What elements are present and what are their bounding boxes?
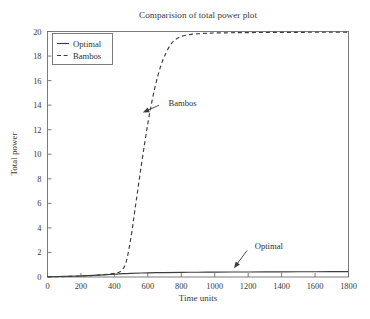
y-tick-label-18: 18 [33, 52, 41, 61]
x-tick-label-0: 0 [45, 282, 49, 291]
y-tick-label-2: 2 [37, 248, 41, 257]
y-tick-label-14: 14 [33, 101, 42, 110]
chart-legend[interactable]: Optimal Bambos [53, 34, 113, 65]
x-axis-title: Time units [179, 293, 218, 303]
y-tick-label-12: 12 [33, 126, 41, 135]
annotations-group: BambosOptimal [143, 98, 284, 268]
x-tick-label-1200: 1200 [240, 282, 257, 291]
x-tick-label-1800: 1800 [340, 282, 357, 291]
annotation-label-bambos: Bambos [169, 98, 198, 108]
power-comparison-line-chart: Comparision of total power plot 02004006… [0, 0, 370, 319]
legend-label-bambos: Bambos [73, 51, 102, 61]
x-tick-label-200: 200 [75, 282, 88, 291]
y-axis-title: Total power [9, 132, 19, 175]
data-series-group [48, 32, 349, 277]
y-axis-ticks: 02468101214161820 [33, 28, 51, 283]
y-tick-label-6: 6 [37, 199, 41, 208]
y-tick-label-20: 20 [33, 28, 41, 37]
x-tick-label-1000: 1000 [206, 282, 223, 291]
annotation-arrow-optimal [236, 251, 247, 265]
annotation-label-optimal: Optimal [255, 241, 284, 251]
y-tick-label-10: 10 [33, 150, 41, 159]
y-tick-label-8: 8 [37, 175, 41, 184]
y-tick-label-16: 16 [33, 77, 41, 86]
legend-label-optimal: Optimal [73, 39, 102, 49]
x-tick-label-1400: 1400 [273, 282, 290, 291]
chart-title: Comparision of total power plot [139, 10, 257, 20]
plot-frame [48, 32, 349, 278]
annotation-arrowhead-bambos [143, 107, 150, 112]
y-tick-label-4: 4 [37, 224, 42, 233]
x-tick-label-1600: 1600 [307, 282, 324, 291]
series-bambos [48, 32, 349, 277]
chart-figure: Comparision of total power plot 02004006… [0, 0, 370, 319]
x-tick-label-800: 800 [175, 282, 188, 291]
annotation-arrowhead-optimal [234, 261, 240, 268]
x-tick-label-600: 600 [142, 282, 155, 291]
y-tick-label-0: 0 [37, 273, 41, 282]
x-tick-label-400: 400 [108, 282, 121, 291]
